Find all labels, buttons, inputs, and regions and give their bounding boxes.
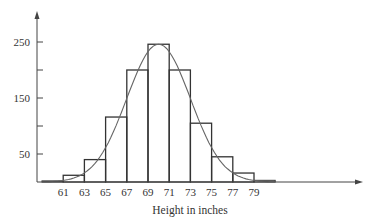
y-tick-label: 50 bbox=[19, 148, 31, 160]
normal-curve bbox=[42, 44, 275, 182]
y-axis-arrow-icon bbox=[35, 11, 40, 19]
y-tick-label: 250 bbox=[14, 36, 31, 48]
x-tick-label: 77 bbox=[227, 186, 239, 198]
x-tick-label: 69 bbox=[143, 186, 155, 198]
x-tick-label: 79 bbox=[249, 186, 261, 198]
y-axis-ticks: 25015050 bbox=[14, 36, 44, 160]
histogram-bars bbox=[42, 44, 275, 182]
x-axis-ticks: 61636567697173757779 bbox=[58, 186, 260, 198]
y-tick-label: 150 bbox=[14, 92, 31, 104]
x-tick-label: 75 bbox=[206, 186, 218, 198]
x-tick-label: 71 bbox=[164, 186, 175, 198]
histogram-bar-73-75 bbox=[190, 123, 211, 182]
x-axis-arrow-icon bbox=[355, 180, 363, 185]
histogram-bar-69-71 bbox=[148, 44, 169, 182]
histogram-bar-71-73 bbox=[169, 70, 190, 182]
x-tick-label: 65 bbox=[100, 186, 112, 198]
histogram-chart: 25015050 61636567697173757779 Height in … bbox=[0, 0, 373, 223]
x-tick-label: 61 bbox=[58, 186, 69, 198]
x-tick-label: 67 bbox=[121, 186, 133, 198]
histogram-bar-67-69 bbox=[127, 70, 148, 182]
x-axis-title: Height in inches bbox=[152, 204, 228, 217]
histogram-bar-65-67 bbox=[106, 117, 127, 182]
x-tick-label: 63 bbox=[79, 186, 91, 198]
x-tick-label: 73 bbox=[185, 186, 197, 198]
histogram-bar-75-77 bbox=[212, 157, 233, 182]
